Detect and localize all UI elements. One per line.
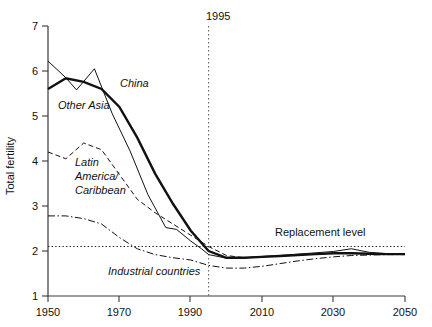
year-marker-label: 1995	[206, 10, 230, 22]
y-axis-title: Total fertility	[4, 136, 16, 195]
series-label-latin-line2: America/	[74, 170, 119, 182]
y-tick-label-4: 4	[32, 155, 38, 167]
y-tick-label-6: 6	[32, 65, 38, 77]
series-label-latin-line3: Caribbean	[75, 184, 126, 196]
fertility-line-chart: 7 6 5 4 3 2 1 1950 1970 1990 2010 2030 2…	[0, 0, 432, 327]
series-label-industrial: Industrial countries	[108, 265, 201, 277]
x-tick-label-1990: 1990	[178, 306, 202, 318]
series-label-other-asia: Other Asia	[58, 99, 110, 111]
y-tick-label-7: 7	[32, 20, 38, 32]
replacement-level-label: Replacement level	[275, 226, 366, 238]
y-tick-label-2: 2	[32, 245, 38, 257]
chart-figure: 7 6 5 4 3 2 1 1950 1970 1990 2010 2030 2…	[0, 0, 432, 327]
x-tick-label-2050: 2050	[393, 306, 417, 318]
x-tick-label-1950: 1950	[36, 306, 60, 318]
y-tick-label-5: 5	[32, 110, 38, 122]
y-tick-label-3: 3	[32, 200, 38, 212]
x-tick-label-2030: 2030	[321, 306, 345, 318]
x-tick-label-1970: 1970	[107, 306, 131, 318]
series-label-china: China	[120, 77, 149, 89]
y-tick-label-1: 1	[32, 290, 38, 302]
x-tick-label-2010: 2010	[250, 306, 274, 318]
chart-background	[0, 0, 432, 327]
series-label-latin-line1: Latin	[75, 156, 99, 168]
